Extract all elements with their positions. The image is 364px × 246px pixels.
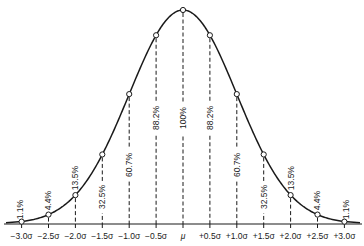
normal-distribution-chart: 1.1%4.4%13.5%32.5%60.7%88.2%100%88.2%60.… [0, 0, 364, 246]
percentage-label: 32.5% [259, 185, 269, 210]
data-point-marker [127, 92, 132, 97]
data-point-marker [261, 152, 266, 157]
tick-label: −1.5σ [91, 231, 114, 241]
data-point-marker [154, 33, 159, 38]
data-point-marker [207, 33, 212, 38]
tick-label: +1.5σ [253, 231, 276, 241]
tick-label: +3.0σ [333, 231, 356, 241]
tick-label: +2.5σ [306, 231, 329, 241]
tick-label: −2.0σ [64, 231, 87, 241]
percentage-label: 1.1% [15, 200, 25, 220]
percentage-label: 4.4% [44, 190, 54, 210]
tick-label: +0.5σ [199, 231, 222, 241]
tick-label: μ [180, 231, 186, 241]
data-point-marker [315, 212, 320, 217]
x-axis-ticks [22, 224, 345, 228]
percentage-label: 100% [178, 107, 188, 129]
data-point-marker [234, 92, 239, 97]
percentage-label: 88.2% [205, 106, 215, 131]
tick-label: −0.5σ [145, 231, 168, 241]
data-point-marker [73, 193, 78, 198]
percentage-label: 4.4% [313, 190, 323, 210]
data-point-marker [100, 152, 105, 157]
tick-label: −3.0σ [11, 231, 34, 241]
percentage-label: 32.5% [97, 185, 107, 210]
percentage-label: 60.7% [232, 153, 242, 178]
data-point-marker [46, 212, 51, 217]
data-point-marker [288, 193, 293, 198]
percentage-label: 60.7% [124, 153, 134, 178]
percentage-label: 88.2% [151, 106, 161, 131]
tick-label: +1.0σ [226, 231, 249, 241]
percentage-label: 1.1% [341, 200, 351, 220]
percentage-label: 13.5% [70, 166, 80, 191]
tick-label: +2.0σ [280, 231, 303, 241]
tick-label: −2.5σ [37, 231, 60, 241]
tick-label: −1.0σ [118, 231, 141, 241]
x-axis-tick-labels: −3.0σ−2.5σ−2.0σ−1.5σ−1.0σ−0.5σμ+0.5σ+1.0… [11, 231, 357, 241]
percentage-label: 13.5% [286, 166, 296, 191]
data-point-marker [180, 7, 185, 12]
